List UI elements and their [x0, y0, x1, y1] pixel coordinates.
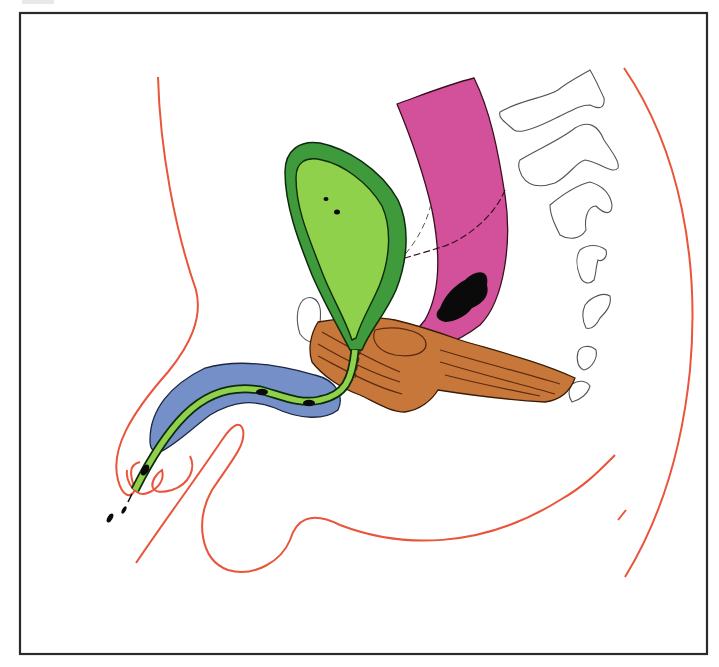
urine-drops [105, 494, 132, 524]
pelvis-anatomy-figure [0, 0, 719, 667]
sacrum-coccyx [500, 70, 619, 402]
penile-bulb [150, 363, 340, 452]
